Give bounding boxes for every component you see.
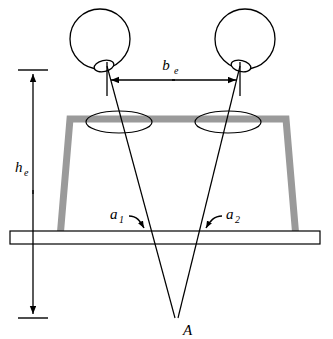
label-angle1-main: a xyxy=(110,206,118,222)
left-eye-sensor xyxy=(70,9,130,73)
label-height-sub: e xyxy=(24,167,29,178)
right-eye-globe-icon xyxy=(215,9,275,69)
label-base-main: b xyxy=(162,57,170,73)
label-angle1: a 1 xyxy=(110,206,124,225)
structure-outline xyxy=(60,119,296,238)
angle2-leader-arrow xyxy=(206,216,222,228)
label-angle2-main: a xyxy=(226,206,234,222)
height-dimension xyxy=(18,70,48,318)
left-eye-globe-icon xyxy=(70,9,130,69)
label-angle2-sub: 2 xyxy=(235,214,240,225)
ground-plane-bar xyxy=(10,231,320,244)
right-eye-sensor xyxy=(215,9,275,73)
label-angle2: a 2 xyxy=(226,206,240,225)
label-height-main: h xyxy=(15,159,23,175)
label-base-sub: e xyxy=(174,65,179,76)
angle1-leader-arrow xyxy=(129,216,144,228)
label-angle1-sub: 1 xyxy=(119,214,124,225)
ray-left-to-point-a xyxy=(107,66,175,318)
stereo-geometry-diagram: b e h e a 1 a 2 A xyxy=(0,0,333,339)
label-base: b e xyxy=(162,57,179,76)
ray-right-to-point-a xyxy=(178,66,240,318)
diagram-canvas: b e h e a 1 a 2 A xyxy=(0,0,333,339)
label-height: h e xyxy=(15,159,29,178)
label-point-a: A xyxy=(182,322,193,338)
